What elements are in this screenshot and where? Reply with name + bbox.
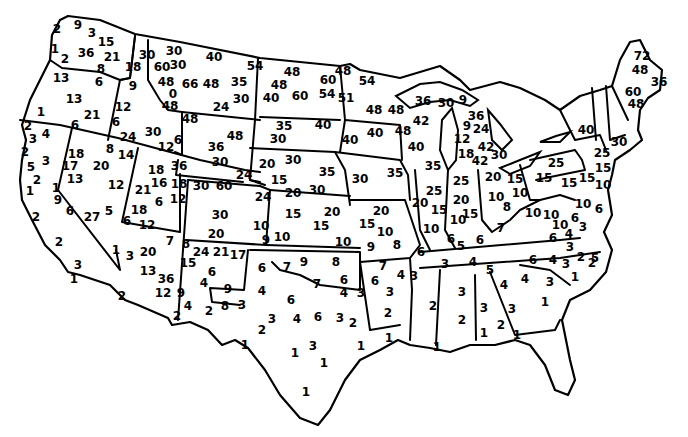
map-value-label: 12 <box>170 193 187 205</box>
map-value-label: 30 <box>166 45 183 57</box>
map-value-label: 12 <box>108 179 125 191</box>
map-value-label: 4 <box>258 285 266 297</box>
map-value-label: 7 <box>166 235 174 247</box>
map-value-label: 10 <box>595 179 612 191</box>
map-value-label: 48 <box>628 98 645 110</box>
map-value-label: 36 <box>208 141 225 153</box>
map-value-label: 2 <box>429 300 437 312</box>
map-value-label: 20 <box>259 158 276 170</box>
map-value-label: 40 <box>315 119 332 131</box>
map-value-label: 35 <box>387 167 404 179</box>
map-value-label: 8 <box>332 256 340 268</box>
map-value-label: 48 <box>162 100 179 112</box>
map-value-label: 10 <box>423 223 440 235</box>
map-value-label: 30 <box>270 133 287 145</box>
map-value-label: 4 <box>184 300 192 312</box>
map-value-label: 60 <box>154 61 171 73</box>
map-value-label: 4 <box>293 313 301 325</box>
map-value-label: 13 <box>67 173 84 185</box>
map-value-label: 30 <box>212 209 229 221</box>
map-value-label: 36 <box>78 47 95 59</box>
map-value-label: 4 <box>549 254 557 266</box>
map-value-label: 2 <box>32 211 40 223</box>
map-value-label: 25 <box>453 175 470 187</box>
map-value-label: 4 <box>340 287 348 299</box>
map-value-label: 35 <box>276 120 293 132</box>
map-value-label: 3 <box>88 27 96 39</box>
map-value-label: 3 <box>546 276 554 288</box>
map-value-label: 4 <box>469 256 477 268</box>
map-value-label: 3 <box>480 302 488 314</box>
map-value-label: 48 <box>227 130 244 142</box>
map-value-label: 13 <box>140 265 157 277</box>
map-value-label: 6 <box>529 254 537 266</box>
map-value-label: 1 <box>70 273 78 285</box>
map-value-label: 6 <box>595 203 603 215</box>
map-value-label: 10 <box>512 187 529 199</box>
map-value-label: 18 <box>125 61 142 73</box>
map-value-label: 30 <box>145 126 162 138</box>
map-value-label: 8 <box>503 201 511 213</box>
map-value-label: 1 <box>385 332 393 344</box>
map-value-label: 3 <box>29 133 37 145</box>
map-value-label: 66 <box>182 78 199 90</box>
map-value-label: 9 <box>177 287 185 299</box>
map-value-label: 2 <box>384 307 392 319</box>
map-value-label: 5 <box>105 205 113 217</box>
map-value-label: 13 <box>66 93 83 105</box>
map-value-label: 10 <box>575 198 592 210</box>
map-value-label: 6 <box>314 311 322 323</box>
map-value-label: 30 <box>193 180 210 192</box>
map-value-label: 17 <box>62 160 79 172</box>
map-value-label: 18 <box>171 178 188 190</box>
map-value-label: 5 <box>457 240 465 252</box>
map-value-label: 48 <box>335 65 352 77</box>
map-value-label: 2 <box>458 314 466 326</box>
map-value-label: 21 <box>213 246 230 258</box>
map-value-label: 40 <box>408 141 425 153</box>
map-value-label: 25 <box>594 147 611 159</box>
map-value-label: 18 <box>148 164 165 176</box>
map-value-label: 10 <box>450 214 467 226</box>
map-value-label: 36 <box>158 273 175 285</box>
map-value-label: 6 <box>155 196 163 208</box>
map-value-label: 30 <box>491 149 508 161</box>
map-value-label: 15 <box>98 36 115 48</box>
map-value-label: 15 <box>271 174 288 186</box>
map-value-label: 6 <box>447 233 455 245</box>
map-value-label: 7 <box>497 222 505 234</box>
map-value-label: 1 <box>513 329 521 341</box>
map-value-label: 12 <box>454 133 471 145</box>
map-value-label: 30 <box>438 97 455 109</box>
map-value-label: 30 <box>285 154 302 166</box>
map-value-label: 36 <box>415 95 432 107</box>
map-value-label: 3 <box>458 286 466 298</box>
map-value-label: 10 <box>552 219 569 231</box>
map-value-label: 4 <box>397 269 405 281</box>
map-value-label: 6 <box>549 232 557 244</box>
map-value-label: 15 <box>180 257 197 269</box>
map-value-label: 2 <box>118 290 126 302</box>
map-value-label: 48 <box>182 113 199 125</box>
map-value-label: 3 <box>336 312 344 324</box>
map-value-label: 51 <box>338 92 355 104</box>
map-value-label: 6 <box>112 116 120 128</box>
map-value-label: 36 <box>171 160 188 172</box>
map-value-label: 48 <box>203 78 220 90</box>
map-value-label: 6 <box>258 262 266 274</box>
map-value-label: 15 <box>359 218 376 230</box>
map-value-label: 10 <box>253 220 270 232</box>
map-value-label: 21 <box>135 184 152 196</box>
map-value-label: 9 <box>129 80 137 92</box>
map-value-label: 27 <box>84 211 101 223</box>
map-value-label: 1 <box>357 340 365 352</box>
map-value-label: 42 <box>472 155 489 167</box>
map-value-label: 6 <box>476 234 484 246</box>
map-value-label: 15 <box>561 177 578 189</box>
map-value-label: 12 <box>155 287 172 299</box>
map-value-label: 18 <box>131 204 148 216</box>
map-value-label: 17 <box>230 249 247 261</box>
map-value-label: 20 <box>324 206 341 218</box>
map-value-label: 54 <box>247 60 264 72</box>
map-value-label: 1 <box>571 271 579 283</box>
